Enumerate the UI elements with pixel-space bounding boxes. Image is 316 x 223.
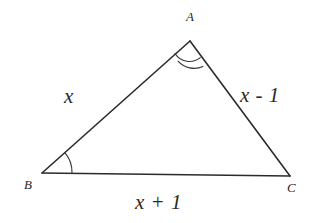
vertex-label-c: C <box>287 181 296 194</box>
vertex-label-a: A <box>186 10 194 23</box>
angle-mark-a-arc-inner <box>178 61 203 68</box>
side-label-ab: x <box>64 86 74 107</box>
angle-mark-b-arc <box>65 153 72 174</box>
side-bc-line <box>42 173 290 176</box>
side-label-ac: x - 1 <box>240 85 280 106</box>
angle-mark-a-arc-outer <box>175 54 200 62</box>
vertex-label-b: B <box>24 178 32 191</box>
side-ac-line <box>190 41 290 176</box>
side-label-bc: x + 1 <box>135 192 182 213</box>
triangle-figure: A B C x x - 1 x + 1 <box>0 0 316 223</box>
